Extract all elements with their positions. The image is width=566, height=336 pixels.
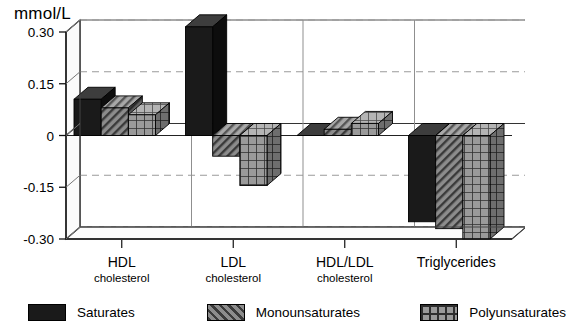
x-category-label: HDL/LDL	[316, 254, 374, 270]
y-tick-label: 0	[46, 129, 54, 144]
bar	[186, 15, 227, 136]
x-category-label: LDL	[220, 254, 246, 270]
legend-swatch-polyunsaturates	[420, 304, 458, 321]
legend-item-monounsaturates: Monounsaturates	[207, 304, 360, 321]
x-axis-labels: HDLcholesterolLDLcholesterolHDL/LDLchole…	[94, 240, 496, 284]
bar	[240, 124, 281, 186]
plot-area: 0.300.150-0.15-0.30 HDLcholesterolLDLcho…	[0, 0, 525, 300]
y-tick-label: 0.30	[28, 25, 54, 40]
legend-label-monounsaturates: Monounsaturates	[256, 305, 360, 320]
legend-label-saturates: Saturates	[77, 305, 135, 320]
y-tick-label: 0.15	[28, 77, 54, 92]
y-tick-label: -0.30	[23, 232, 54, 247]
legend-item-polyunsaturates: Polyunsaturates	[420, 304, 566, 321]
y-tick-label: -0.15	[23, 180, 54, 195]
x-category-sublabel: cholesterol	[205, 272, 261, 284]
x-category-label: HDL	[108, 254, 136, 270]
x-category-label: Triglycerides	[417, 254, 496, 270]
chart-legend: Saturates Monounsaturates Polyunsaturate…	[0, 297, 525, 327]
legend-item-saturates: Saturates	[28, 304, 135, 321]
legend-swatch-monounsaturates	[207, 304, 245, 321]
legend-label-polyunsaturates: Polyunsaturates	[469, 305, 566, 320]
x-category-sublabel: cholesterol	[317, 272, 373, 284]
x-category-sublabel: cholesterol	[94, 272, 150, 284]
bar	[463, 124, 504, 240]
legend-swatch-saturates	[28, 304, 66, 321]
